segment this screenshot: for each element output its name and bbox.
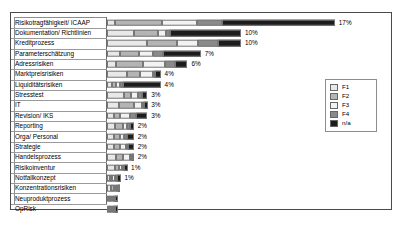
category-label: Strategie: [15, 144, 41, 150]
bar-row[interactable]: Risikoinventur1%: [11, 162, 391, 172]
legend-swatch-F3: [330, 102, 338, 109]
bar-segment-F3: [131, 92, 138, 99]
stacked-bar[interactable]: [107, 102, 148, 109]
bar-segment-na: [132, 154, 134, 161]
bar-row[interactable]: Risikotragfähigkeit/ ICAAP17%: [11, 18, 391, 28]
bar-value-label: 2%: [138, 123, 147, 129]
category-label: Dokumentation/ Richtlinien: [15, 30, 91, 36]
category-label: Adressrisiken: [15, 61, 53, 67]
bar-row[interactable]: Kreditprozess10%: [11, 38, 391, 48]
stacked-bar[interactable]: [107, 92, 147, 99]
bar-segment-na: [117, 175, 121, 182]
bar-segment-na: [123, 81, 161, 88]
bar-segment-F2: [147, 40, 176, 47]
legend-item[interactable]: F3: [330, 101, 372, 110]
stacked-bar[interactable]: [107, 40, 241, 47]
bar-segment-F2: [115, 123, 123, 130]
bar-segment-F1: [107, 164, 115, 171]
bar-row[interactable]: Strategie2%: [11, 142, 391, 152]
legend-item[interactable]: F1: [330, 83, 372, 92]
stacked-bar[interactable]: [107, 50, 201, 57]
legend-label: F1: [342, 84, 349, 90]
stacked-bar[interactable]: [107, 19, 335, 26]
bar-value-label: 2%: [138, 154, 147, 160]
bar-segment-F1: [107, 154, 116, 161]
bar-segment-F4: [165, 61, 176, 68]
bar-row[interactable]: Adressrisiken6%: [11, 59, 391, 69]
bar-segment-F1: [107, 123, 115, 130]
stacked-bar[interactable]: [107, 123, 134, 130]
stacked-bar[interactable]: [107, 144, 134, 151]
legend-label: F3: [342, 102, 349, 108]
category-label: Reporting: [15, 123, 43, 129]
legend-swatch-na: [330, 120, 338, 127]
bar-segment-F2: [124, 92, 131, 99]
bar-segment-F2: [114, 113, 121, 120]
category-label: Stresstest: [15, 92, 43, 98]
stacked-bar[interactable]: [107, 133, 134, 140]
bar-segment-F3: [143, 61, 164, 68]
bar-row[interactable]: Konzentrationsrisiken: [11, 183, 391, 193]
stacked-bar[interactable]: [107, 206, 118, 213]
legend-swatch-F2: [330, 93, 338, 100]
legend-swatch-F4: [330, 111, 338, 118]
chart-frame: Risikotragfähigkeit/ ICAAP17%Dokumentati…: [10, 12, 392, 210]
bar-segment-F3: [158, 30, 166, 37]
bar-segment-F2: [115, 19, 162, 26]
bar-value-label: 2%: [138, 144, 147, 150]
stacked-bar[interactable]: [107, 164, 128, 171]
bar-segment-F1: [107, 50, 120, 57]
stacked-bar[interactable]: [107, 71, 161, 78]
category-label: Liquiditätsrisiken: [15, 82, 62, 88]
legend-swatch-F1: [330, 84, 338, 91]
bar-segment-F3: [140, 71, 152, 78]
bar-segment-F1: [107, 71, 127, 78]
bar-row[interactable]: Orga/ Personal2%: [11, 131, 391, 141]
bar-segment-na: [144, 102, 148, 109]
bar-row[interactable]: Parameterschätzung7%: [11, 49, 391, 59]
bar-value-label: 3%: [151, 102, 160, 108]
bar-row[interactable]: Notfallkonzept1%: [11, 173, 391, 183]
bar-segment-F2: [134, 30, 158, 37]
bar-segment-na: [155, 71, 160, 78]
stacked-bar[interactable]: [107, 185, 120, 192]
stacked-bar[interactable]: [107, 113, 147, 120]
bar-segment-F4: [197, 19, 222, 26]
bar-segment-F3: [120, 113, 129, 120]
stacked-bar[interactable]: [107, 175, 121, 182]
bar-segment-F1: [107, 61, 116, 68]
bar-segment-na: [128, 144, 133, 151]
bar-segment-na: [127, 133, 134, 140]
bar-value-label: 7%: [205, 51, 214, 57]
category-label: Risikoinventur: [15, 164, 55, 170]
stacked-bar[interactable]: [107, 61, 187, 68]
chart-legend: F1F2F3F4n/a: [325, 79, 377, 132]
bar-segment-F2: [114, 133, 121, 140]
stacked-bar[interactable]: [107, 81, 161, 88]
bar-segment-F1: [107, 92, 124, 99]
legend-item[interactable]: F4: [330, 110, 372, 119]
bar-row[interactable]: OpRisk: [11, 204, 391, 214]
bar-row[interactable]: Neuproduktprozess: [11, 193, 391, 203]
bar-row[interactable]: Handelsprozess2%: [11, 152, 391, 162]
bar-segment-F1: [107, 113, 114, 120]
bar-segment-na: [136, 113, 147, 120]
bar-row[interactable]: Dokumentation/ Richtlinien10%: [11, 28, 391, 38]
stacked-bar[interactable]: [107, 30, 241, 37]
stacked-bar[interactable]: [107, 195, 118, 202]
category-label: Revision/ IKS: [15, 113, 53, 119]
stacked-bar[interactable]: [107, 154, 134, 161]
category-label: Konzentrationsrisiken: [15, 185, 76, 191]
category-label: Neuproduktprozess: [15, 195, 70, 201]
bar-segment-F1: [107, 144, 114, 151]
bar-value-label: 10%: [245, 30, 258, 36]
legend-item[interactable]: F2: [330, 92, 372, 101]
bar-segment-F2: [116, 154, 123, 161]
legend-item[interactable]: n/a: [330, 119, 372, 128]
bar-segment-F1: [107, 102, 119, 109]
bar-segment-na: [130, 123, 134, 130]
category-label: Kreditprozess: [15, 40, 54, 46]
bar-segment-F3: [139, 50, 152, 57]
bar-segment-na: [218, 40, 241, 47]
bar-value-label: 6%: [191, 61, 200, 67]
